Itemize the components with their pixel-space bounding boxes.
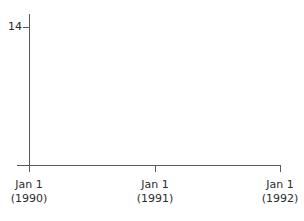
chart-container: 14 Jan 1 (1990) Jan 1 (1991) Jan 1 (1992…	[0, 0, 304, 221]
x-axis-tick-label-2: Jan 1 (1992)	[240, 178, 304, 205]
x-axis-tick-label-1: Jan 1 (1991)	[115, 178, 195, 205]
y-axis-line	[29, 14, 30, 166]
x-axis-tick-0	[29, 166, 30, 172]
y-axis-tick-14	[23, 27, 30, 28]
x-axis-tick-label-1-line2: (1991)	[115, 192, 195, 206]
x-axis-line	[17, 165, 281, 166]
x-axis-tick-label-0: Jan 1 (1990)	[0, 178, 69, 205]
x-axis-tick-label-0-line1: Jan 1	[15, 178, 42, 191]
y-axis-tick-label-14: 14	[8, 21, 22, 32]
plot-area	[30, 14, 281, 165]
x-axis-tick-label-0-line2: (1990)	[0, 192, 69, 206]
x-axis-tick-2	[280, 166, 281, 172]
x-axis-tick-label-2-line1: Jan 1	[266, 178, 293, 191]
x-axis-tick-1	[155, 166, 156, 172]
x-axis-tick-label-1-line1: Jan 1	[141, 178, 168, 191]
x-axis-tick-label-2-line2: (1992)	[240, 192, 304, 206]
